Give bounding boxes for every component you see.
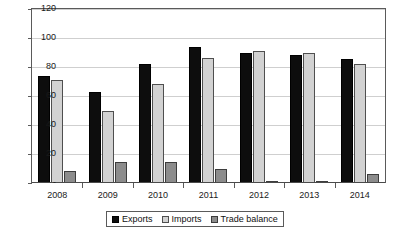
bar-group xyxy=(183,9,233,183)
x-axis-line xyxy=(32,182,385,183)
x-tick-mark xyxy=(335,183,336,188)
x-tick-label-2014: 2014 xyxy=(335,190,385,200)
bar-balance xyxy=(165,162,177,183)
plot-area xyxy=(32,9,385,183)
bar-imports xyxy=(202,58,214,183)
bar-exports xyxy=(189,47,201,183)
bar-group xyxy=(133,9,183,183)
legend-item-exports: Exports xyxy=(112,214,153,224)
bar-group xyxy=(234,9,284,183)
x-tick-label-2009: 2009 xyxy=(83,190,133,200)
y-tick-label: - xyxy=(26,178,56,187)
y-tick-label: 20 xyxy=(26,149,56,158)
legend-label: Trade balance xyxy=(221,214,278,224)
bar-group xyxy=(82,9,132,183)
bar-imports xyxy=(152,84,164,183)
y-tick-label: 120 xyxy=(26,4,56,13)
x-tick-mark xyxy=(82,183,83,188)
legend-swatch-exports xyxy=(112,216,119,223)
bar-balance xyxy=(215,169,227,183)
x-tick-mark xyxy=(133,183,134,188)
y-tick-label: 100 xyxy=(26,33,56,42)
bar-imports xyxy=(354,64,366,183)
x-tick-mark xyxy=(234,183,235,188)
legend-swatch-balance xyxy=(211,216,218,223)
bar-imports xyxy=(253,51,265,183)
chart-legend: ExportsImportsTrade balance xyxy=(106,211,284,227)
bar-imports xyxy=(303,53,315,184)
legend-item-imports: Imports xyxy=(162,214,202,224)
y-tick-label: 80 xyxy=(26,62,56,71)
bar-group xyxy=(335,9,385,183)
bar-imports xyxy=(102,111,114,184)
bar-exports xyxy=(139,64,151,183)
bar-chart: -20406080100120 200820092010201120122013… xyxy=(0,0,393,234)
x-tick-label-2013: 2013 xyxy=(284,190,334,200)
x-tick-mark xyxy=(183,183,184,188)
x-tick-label-2012: 2012 xyxy=(234,190,284,200)
y-tick-label: 40 xyxy=(26,120,56,129)
bar-group xyxy=(284,9,334,183)
legend-swatch-imports xyxy=(162,216,169,223)
x-tick-mark xyxy=(284,183,285,188)
legend-item-balance: Trade balance xyxy=(211,214,278,224)
legend-label: Imports xyxy=(172,214,202,224)
x-tick-label-2011: 2011 xyxy=(184,190,234,200)
y-tick-label: 60 xyxy=(26,91,56,100)
bar-exports xyxy=(240,53,252,184)
bar-balance xyxy=(115,162,127,183)
legend-label: Exports xyxy=(122,214,153,224)
bar-exports xyxy=(290,55,302,183)
x-tick-label-2010: 2010 xyxy=(133,190,183,200)
bar-exports xyxy=(89,92,101,183)
bar-exports xyxy=(341,59,353,183)
x-tick-label-2008: 2008 xyxy=(32,190,82,200)
